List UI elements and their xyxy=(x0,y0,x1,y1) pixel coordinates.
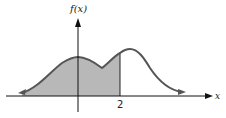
density-figure: f(x) x 2 xyxy=(0,0,226,118)
y-axis-label: f(x) xyxy=(70,4,87,14)
plot-canvas xyxy=(0,0,226,118)
y-axis-arrow-icon xyxy=(75,18,81,27)
curve-right-arrow-icon xyxy=(178,89,186,95)
x-axis-arrow-icon xyxy=(205,93,213,99)
curve-left-arrow-icon xyxy=(18,89,26,95)
x-axis-label: x xyxy=(215,92,220,101)
x-tick-2: 2 xyxy=(117,100,123,110)
